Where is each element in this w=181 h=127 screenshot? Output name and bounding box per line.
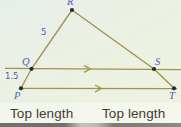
side-rt xyxy=(72,10,174,88)
measurement-rq: 5 xyxy=(41,28,46,37)
point-label-s: S xyxy=(155,57,160,68)
caption-left: Top length xyxy=(10,107,73,122)
point-label-t: T xyxy=(169,91,175,102)
side-rp xyxy=(21,10,72,88)
geometry-diagram: R Q S P T 5 1.5 Top length Top length xyxy=(0,0,181,127)
measurement-qp: 1.5 xyxy=(5,72,19,81)
point-label-r: R xyxy=(67,0,73,8)
caption-right: Top length xyxy=(102,107,165,122)
point-dot-q xyxy=(29,67,33,71)
point-dot-r xyxy=(70,8,74,12)
photo-edge xyxy=(0,123,181,127)
point-dot-s xyxy=(152,67,156,71)
point-label-q: Q xyxy=(22,57,30,68)
point-label-p: P xyxy=(14,91,20,102)
